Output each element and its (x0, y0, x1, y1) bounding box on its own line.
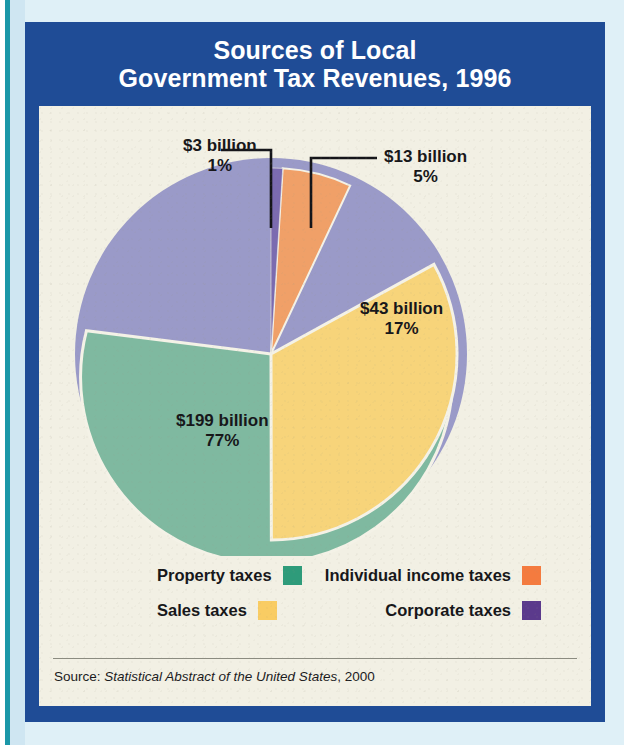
slice-label-sales-amount: $43 billion (360, 299, 443, 319)
slice-label-property-percent: 77% (176, 431, 269, 451)
legend-label-corporate-taxes: Corporate taxes (385, 601, 511, 620)
pie-chart-svg (39, 106, 591, 556)
printed-page: Sources of Local Government Tax Revenues… (0, 0, 624, 745)
legend-label-individual-income-taxes: Individual income taxes (325, 566, 511, 585)
callout-corporate-percent: 1% (183, 156, 257, 176)
chart-legend: Property taxes Individual income taxes S… (39, 558, 591, 644)
legend-swatch-individual-income-taxes (522, 566, 541, 585)
title-line-1: Sources of Local (213, 36, 416, 64)
source-suffix: , 2000 (337, 669, 375, 684)
figure-title: Sources of Local Government Tax Revenues… (25, 22, 605, 106)
callout-corporate-taxes: $3 billion 1% (183, 136, 257, 176)
chart-panel: $3 billion 1% $13 billion 5% $43 billion… (39, 106, 591, 706)
source-divider (53, 658, 577, 659)
legend-item-individual-income-taxes: Individual income taxes (325, 566, 565, 585)
legend-swatch-sales-taxes (258, 601, 277, 620)
legend-item-sales-taxes: Sales taxes (65, 601, 277, 620)
pie-chart: $3 billion 1% $13 billion 5% $43 billion… (39, 106, 591, 556)
source-note: Source: Statistical Abstract of the Unit… (54, 669, 375, 684)
callout-individual-amount: $13 billion (384, 147, 467, 167)
callout-individual-percent: 5% (384, 167, 467, 187)
callout-corporate-amount: $3 billion (183, 136, 257, 156)
slice-label-sales-percent: 17% (360, 319, 443, 339)
legend-label-sales-taxes: Sales taxes (157, 601, 247, 620)
source-prefix: Source: (54, 669, 104, 684)
callout-individual-income-taxes: $13 billion 5% (384, 147, 467, 187)
slice-label-sales-taxes: $43 billion 17% (360, 299, 443, 340)
legend-row-1: Property taxes Individual income taxes (65, 558, 565, 593)
legend-swatch-corporate-taxes (522, 601, 541, 620)
legend-item-property-taxes: Property taxes (65, 566, 302, 585)
legend-item-corporate-taxes: Corporate taxes (385, 601, 565, 620)
title-line-2: Government Tax Revenues, 1996 (119, 64, 512, 92)
source-title: Statistical Abstract of the United State… (104, 669, 337, 684)
slice-label-property-amount: $199 billion (176, 411, 269, 431)
legend-swatch-property-taxes (283, 566, 302, 585)
legend-label-property-taxes: Property taxes (157, 566, 272, 585)
page-left-blue-band (10, 0, 25, 745)
slice-label-property-taxes: $199 billion 77% (176, 411, 269, 452)
legend-row-2: Sales taxes Corporate taxes (65, 593, 565, 628)
